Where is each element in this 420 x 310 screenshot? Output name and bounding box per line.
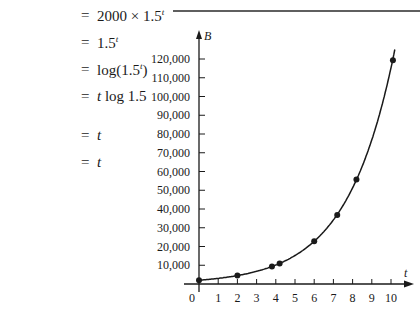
y-tick-label: 20,000 [157,240,190,254]
x-axis-label: t [404,266,408,280]
x-tick-label: 10 [385,291,397,305]
y-tick-label: 80,000 [157,127,190,141]
x-tick-label: 9 [369,291,375,305]
y-tick-label: 120,000 [151,52,190,66]
origin-label: 0 [189,291,195,305]
growth-curve [199,50,395,281]
data-point [196,277,202,283]
y-tick-label: 30,000 [157,221,190,235]
y-tick-label: 60,000 [157,165,190,179]
x-tick-label: 4 [273,291,279,305]
x-tick-label: 1 [215,291,221,305]
data-points [196,57,396,283]
y-axis-arrow-icon [196,30,202,39]
axes: tB0 [184,29,414,305]
y-tick-label: 50,000 [157,183,190,197]
y-axis-label: B [204,29,212,43]
y-tick-label: 40,000 [157,202,190,216]
data-point [277,260,283,266]
y-tick-label: 110,000 [151,71,190,85]
x-axis-arrow-icon [404,281,414,288]
y-tick-label: 100,000 [151,90,190,104]
x-tick-label: 8 [350,291,356,305]
x-tick-label: 5 [292,291,298,305]
data-point [390,57,396,63]
data-point [334,212,340,218]
x-tick-label: 3 [254,291,260,305]
data-point [234,273,240,279]
exponential-growth-chart: tB0 1234567891010,00020,00030,00040,0005… [0,0,420,310]
x-tick-label: 2 [234,291,240,305]
data-point [311,238,317,244]
y-tick-label: 10,000 [157,258,190,272]
x-tick-label: 6 [311,291,317,305]
y-tick-label: 70,000 [157,146,190,160]
x-tick-label: 7 [330,291,336,305]
data-point [353,177,359,183]
y-tick-label: 90,000 [157,108,190,122]
data-point [269,264,275,270]
